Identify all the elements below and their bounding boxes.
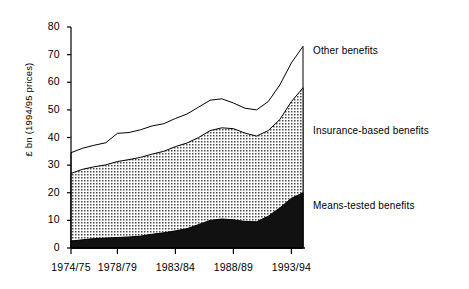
y-tick-label: 60: [34, 75, 60, 87]
chart-container: £ bn (1994/95 prices) 01020304050607080 …: [0, 0, 469, 289]
x-tick-label: 1978/79: [87, 261, 147, 273]
y-tick-label: 80: [34, 20, 60, 32]
x-tick-label: 1983/84: [145, 261, 205, 273]
y-tick-label: 50: [34, 103, 60, 115]
y-tick-label: 10: [34, 213, 60, 225]
legend-label-other-benefits: Other benefits: [313, 45, 378, 56]
x-tick-label: 1993/94: [261, 261, 321, 273]
legend-label-insurance-based-benefits: Insurance-based benefits: [313, 125, 429, 136]
x-tick-label: 1988/89: [203, 261, 263, 273]
y-tick-label: 40: [34, 131, 60, 143]
y-tick-label: 30: [34, 158, 60, 170]
y-tick-label: 20: [34, 186, 60, 198]
y-tick-label: 70: [34, 48, 60, 60]
y-tick-label: 0: [34, 241, 60, 253]
legend-label-means-tested-benefits: Means-tested benefits: [313, 200, 415, 211]
stacked-areas: [71, 46, 303, 248]
chart-plot-area: [0, 0, 469, 289]
